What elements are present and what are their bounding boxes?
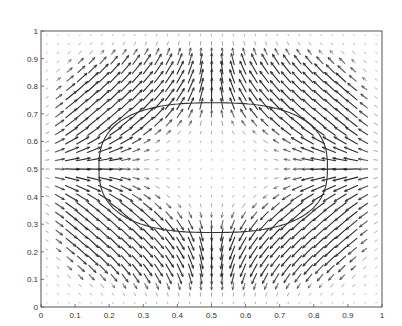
vector-arrow [255,293,256,296]
vector-arrow [156,42,157,45]
vector-arrow [68,35,69,36]
vector-arrow [57,284,59,286]
vector-arrow [78,256,87,264]
vector-arrow [132,90,142,100]
vector-arrow [110,63,119,73]
vector-arrow [57,276,59,278]
vector-arrow [374,160,378,161]
vector-arrow [167,150,169,151]
vector-arrow [303,247,313,257]
vector-arrow [261,212,269,220]
vector-arrow [46,187,49,188]
vector-arrow [311,147,324,152]
vector-arrow [291,203,302,211]
vector-arrow [156,302,157,303]
vector-arrow [294,55,301,64]
vector-arrow [375,97,377,99]
vector-arrow [346,109,357,118]
vector-arrow [46,123,49,125]
vector-arrow [112,43,114,45]
vector-arrow [110,186,123,192]
vector-arrow [111,56,117,64]
vector-arrow [100,64,109,73]
vector-arrow [99,256,109,266]
vector-arrow [143,81,152,92]
vector-arrow [295,274,301,282]
vector-arrow [335,127,347,135]
vector-arrow [200,160,201,161]
vector-arrow [99,238,109,248]
vector-arrow [292,256,301,266]
vector-arrow [271,256,280,267]
vector-arrow [144,203,153,210]
vector-arrow [66,186,79,192]
vector-arrow [178,293,179,296]
vector-arrow [275,160,279,161]
vector-arrow [315,64,324,73]
vector-arrow [314,238,324,248]
vector-arrow [301,137,313,144]
vector-arrow [325,99,335,108]
vector-arrow [88,127,99,135]
vector-arrow [323,194,335,201]
vector-arrow [66,220,77,229]
vector-arrow [78,66,85,72]
vector-arrow [375,240,377,242]
vector-arrow [254,178,256,179]
vector-arrow [288,34,289,35]
vector-arrow [374,178,378,179]
vector-arrow [321,35,322,36]
vector-arrow [303,220,313,230]
vector-arrow [320,293,322,295]
vector-arrow [133,274,139,283]
vector-arrow [79,51,82,54]
vector-arrow [57,43,58,44]
vector-arrow [46,160,50,161]
vector-arrow [46,240,48,242]
vector-arrow [123,302,124,303]
vector-arrow [57,302,58,303]
vector-arrow [309,293,311,295]
vector-arrow [348,248,356,255]
vector-arrow [293,265,302,276]
x-tick-label: 0.9 [342,311,354,320]
vector-arrow [143,247,152,258]
vector-arrow [56,111,64,117]
vector-arrow [364,52,366,54]
vector-arrow [314,256,324,266]
vector-arrow [178,195,180,197]
vector-arrow [166,212,172,219]
vector-arrow [354,302,355,303]
vector-arrow [189,204,191,207]
vector-arrow [292,99,302,109]
vector-arrow [200,204,201,207]
vector-arrow [325,256,335,266]
vector-arrow [123,293,125,295]
vector-arrow [66,109,77,118]
vector-arrow [77,194,89,201]
vector-arrow [341,51,344,54]
vector-arrow [359,129,368,135]
vector-arrow [270,247,279,258]
vector-arrow [122,274,128,282]
vector-arrow [222,160,223,161]
vector-arrow [66,238,76,246]
vector-arrow [90,43,92,45]
vector-arrow [310,35,311,36]
vector-arrow [165,220,174,231]
vector-arrow [121,72,131,82]
vector-arrow [281,229,291,239]
vector-arrow [189,151,190,152]
vector-arrow [110,72,120,82]
vector-arrow [66,127,78,135]
vector-arrow [155,54,161,64]
vector-arrow [374,132,377,134]
vector-arrow [243,204,246,208]
vector-arrow [156,160,159,161]
vector-arrow [178,141,180,143]
vector-arrow [189,42,190,46]
vector-arrow [121,63,130,74]
vector-arrow [280,117,291,126]
vector-arrow [376,276,377,277]
vector-arrow [99,108,109,117]
